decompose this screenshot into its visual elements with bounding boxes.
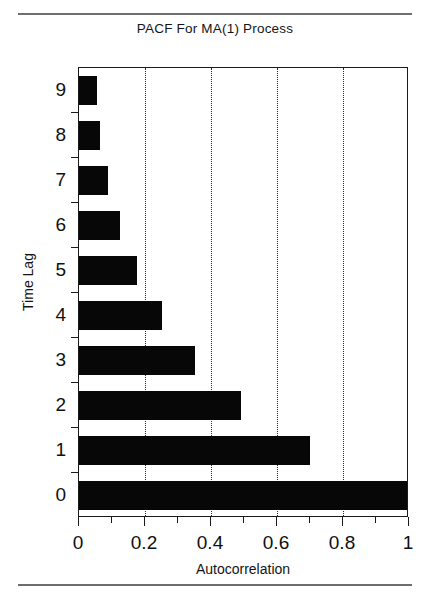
y-axis-tick [71, 202, 78, 203]
bar [79, 301, 162, 330]
x-axis-tick [78, 517, 79, 526]
bar [79, 346, 195, 375]
y-axis-tick-label: 3 [38, 350, 66, 369]
bar-row [79, 383, 407, 428]
y-axis-tick [71, 112, 78, 113]
x-axis-tick [342, 517, 343, 526]
y-axis-tick [71, 427, 78, 428]
bar [79, 121, 100, 150]
plot-area [78, 67, 408, 517]
x-axis-minor-tick [309, 517, 310, 523]
x-axis-minor-tick [243, 517, 244, 523]
x-axis-tick [210, 517, 211, 526]
x-axis-tick-label: 0.4 [180, 533, 240, 552]
x-axis-minor-tick [111, 517, 112, 523]
x-axis-tick-label: 0.8 [312, 533, 372, 552]
y-axis-tick [71, 382, 78, 383]
x-axis-label: Autocorrelation [78, 561, 408, 577]
bar [79, 211, 120, 240]
y-axis-tick-label: 5 [38, 260, 66, 279]
y-axis-tick-label: 7 [38, 170, 66, 189]
bar-row [79, 203, 407, 248]
y-axis-tick-label: 0 [38, 485, 66, 504]
x-axis-tick [408, 517, 409, 526]
bar-row [79, 113, 407, 158]
y-axis-tick [71, 292, 78, 293]
x-axis-tick-label: 0 [48, 533, 108, 552]
x-axis-tick [144, 517, 145, 526]
x-axis-minor-tick [177, 517, 178, 523]
x-axis-tick-label: 0.2 [114, 533, 174, 552]
bar-row [79, 338, 407, 383]
x-axis-tick-label: 1 [378, 533, 430, 552]
bar [79, 76, 97, 105]
y-axis-label: Time Lag [20, 234, 36, 330]
y-axis-tick-label: 1 [38, 440, 66, 459]
bar-row [79, 68, 407, 113]
bar [79, 436, 310, 465]
bar-row [79, 293, 407, 338]
bar [79, 481, 408, 510]
bar-row [79, 158, 407, 203]
bar [79, 391, 241, 420]
y-axis-tick-label: 6 [38, 215, 66, 234]
y-axis-tick [71, 337, 78, 338]
bar-row [79, 473, 407, 517]
bar-row [79, 248, 407, 293]
y-axis-tick [71, 247, 78, 248]
y-axis-tick-label: 9 [38, 80, 66, 99]
bar [79, 166, 108, 195]
x-axis-minor-tick [375, 517, 376, 523]
y-axis-tick-label: 8 [38, 125, 66, 144]
y-axis-tick-label: 2 [38, 395, 66, 414]
pacf-chart-figure: PACF For MA(1) Process 0123456789 Time L… [0, 0, 430, 595]
bar-row [79, 428, 407, 473]
x-axis-tick [276, 517, 277, 526]
chart-title: PACF For MA(1) Process [0, 21, 430, 36]
y-axis-tick [71, 472, 78, 473]
y-axis-tick-label: 4 [38, 305, 66, 324]
bar [79, 256, 137, 285]
x-axis-tick-label: 0.6 [246, 533, 306, 552]
y-axis-tick [71, 157, 78, 158]
